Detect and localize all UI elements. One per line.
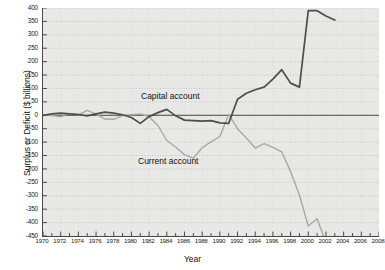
y-tick-label: 150 xyxy=(4,72,38,79)
y-tick-label: -200 xyxy=(4,166,38,173)
capital-account-label: Capital account xyxy=(141,91,200,101)
y-axis-tick-labels: 400350300250200150100500-50-100-150-200-… xyxy=(0,0,42,270)
x-tick-label: 1974 xyxy=(71,238,84,244)
y-axis-title: Surplus or Deficit ($ billions) xyxy=(22,43,32,203)
x-tick-label: 1976 xyxy=(89,238,102,244)
current-account-label: Current account xyxy=(138,156,198,166)
x-tick-label: 1986 xyxy=(177,238,190,244)
x-tick-label: 1980 xyxy=(124,238,137,244)
x-tick-label: 2004 xyxy=(336,238,349,244)
plot-svg xyxy=(43,8,379,236)
x-axis-tick-labels: 1970197219741976197819801982198419861988… xyxy=(0,238,385,252)
plot-area: Capital account Current account xyxy=(42,8,379,237)
x-tick-label: 1994 xyxy=(248,238,261,244)
capital-account-line xyxy=(43,11,335,124)
chart-figure: Capital account Current account 40035030… xyxy=(0,0,385,270)
x-tick-label: 1998 xyxy=(283,238,296,244)
y-tick-label: 50 xyxy=(4,98,38,105)
x-tick-label: 2008 xyxy=(372,238,385,244)
x-tick-label: 1988 xyxy=(195,238,208,244)
y-tick-label: -300 xyxy=(4,192,38,199)
current-account-line xyxy=(43,110,335,236)
y-tick-label: 300 xyxy=(4,31,38,38)
gridlines xyxy=(43,8,379,236)
y-tick-label: 350 xyxy=(4,18,38,25)
x-axis-title: Year xyxy=(0,254,385,264)
y-tick-label: -250 xyxy=(4,179,38,186)
x-tick-label: 2006 xyxy=(354,238,367,244)
y-tick-label: 250 xyxy=(4,45,38,52)
axis-tick-marks xyxy=(43,8,379,236)
y-tick-label: 100 xyxy=(4,85,38,92)
x-tick-label: 1970 xyxy=(36,238,49,244)
x-tick-label: 1982 xyxy=(142,238,155,244)
y-tick-label: -350 xyxy=(4,206,38,213)
x-tick-label: 1990 xyxy=(212,238,225,244)
x-tick-label: 1992 xyxy=(230,238,243,244)
y-tick-label: 0 xyxy=(4,112,38,119)
y-tick-label: 200 xyxy=(4,58,38,65)
x-tick-label: 2002 xyxy=(319,238,332,244)
y-tick-label: -50 xyxy=(4,125,38,132)
x-tick-label: 1984 xyxy=(159,238,172,244)
y-tick-label: -100 xyxy=(4,139,38,146)
x-tick-label: 1972 xyxy=(53,238,66,244)
x-tick-label: 1978 xyxy=(106,238,119,244)
y-tick-label: -400 xyxy=(4,219,38,226)
y-tick-label: -150 xyxy=(4,152,38,159)
x-tick-label: 2000 xyxy=(301,238,314,244)
y-tick-label: 400 xyxy=(4,5,38,12)
x-tick-label: 1996 xyxy=(266,238,279,244)
